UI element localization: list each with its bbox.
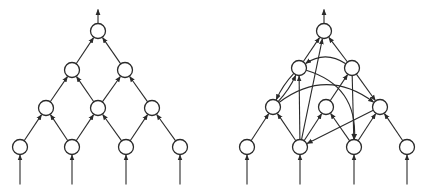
recurrent-network-panel [240,10,415,185]
edge [302,39,323,140]
edge [299,76,300,140]
edge [76,38,93,64]
node-circle [13,140,28,155]
edge [384,114,402,141]
edge [24,115,41,141]
edge [358,114,376,141]
edge [304,114,322,141]
node-circle [65,63,80,78]
edge [329,37,348,62]
edge [102,77,120,102]
node-circle [292,61,307,76]
node-circle [319,100,334,115]
node-circle [145,101,160,116]
node-circle [266,100,281,115]
edge [251,114,269,141]
edge [103,38,121,64]
edge [352,75,354,139]
node-circle [91,24,106,39]
node-circle [39,101,54,116]
node-circle [317,24,332,39]
edge [276,73,294,99]
node-circle [293,140,308,155]
edge [103,114,122,140]
layered-network-panel [13,10,188,185]
edge [307,110,373,143]
edge [76,115,93,141]
edge [77,77,94,102]
edge [130,115,147,141]
edge [130,77,148,102]
node-circle [373,100,388,115]
node-circle [65,140,80,155]
edge [306,57,346,64]
edge [157,114,176,140]
edge [50,77,67,102]
network-diagrams [0,0,423,187]
node-circle [173,140,188,155]
node-circle [91,101,106,116]
node-circle [345,61,360,76]
node-circle [400,140,415,155]
node-circle [119,140,134,155]
edge [277,114,295,141]
node-circle [240,140,255,155]
node-circle [118,63,133,78]
node-circle [347,140,362,155]
edge [50,115,67,141]
